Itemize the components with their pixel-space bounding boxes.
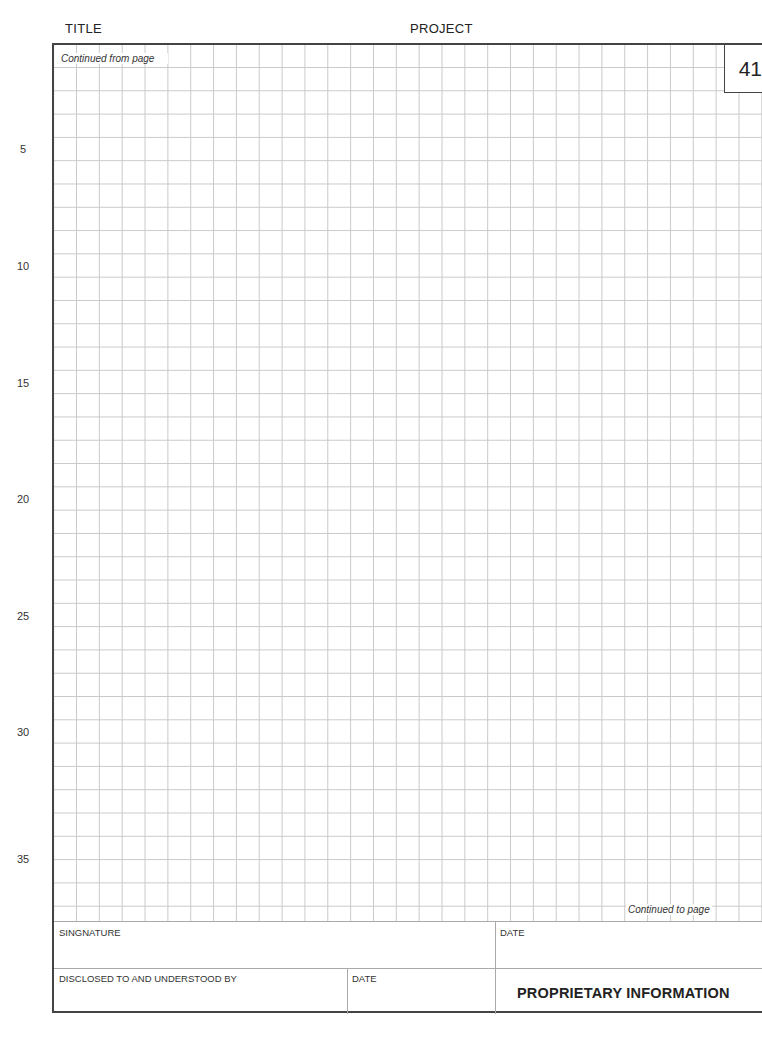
row-number: 30	[0, 726, 46, 738]
project-label: PROJECT	[410, 21, 473, 36]
disclosure-row: DISCLOSED TO AND UNDERSTOOD BY DATE PROP…	[54, 969, 762, 1014]
disclosed-label: DISCLOSED TO AND UNDERSTOOD BY	[59, 973, 237, 984]
row-number: 25	[0, 610, 46, 622]
row-number: 20	[0, 493, 46, 505]
signature-row: SINGNATURE DATE	[54, 922, 762, 969]
continued-from-label: Continued from page	[59, 53, 168, 64]
row-number: 35	[0, 853, 46, 865]
row-number: 5	[0, 143, 46, 155]
page-number-box: 41	[724, 45, 762, 93]
proprietary-information: PROPRIETARY INFORMATION	[517, 985, 730, 1001]
notebook-page-frame: Continued from page 41 Continued to page…	[52, 43, 762, 1013]
title-label: TITLE	[65, 21, 102, 36]
row-number: 10	[0, 260, 46, 272]
signature-label: SINGNATURE	[59, 927, 121, 938]
grid-area[interactable]	[54, 45, 762, 921]
continued-to-label: Continued to page	[626, 904, 712, 915]
disclosure-date-label: DATE	[352, 973, 377, 984]
row-number: 15	[0, 377, 46, 389]
divider	[495, 922, 496, 968]
divider	[347, 969, 348, 1014]
signature-date-label: DATE	[500, 927, 525, 938]
footer-block: SINGNATURE DATE DISCLOSED TO AND UNDERST…	[54, 921, 762, 1014]
page-number: 41	[739, 57, 762, 81]
divider	[495, 969, 496, 1014]
